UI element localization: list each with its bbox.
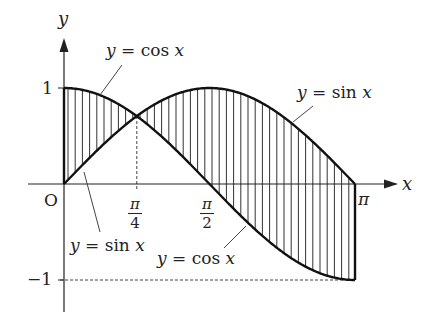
label-fn: sin [105, 235, 130, 255]
origin-label: O [44, 192, 58, 209]
label-cos-bottom: y = cos x [157, 250, 235, 267]
y-axis-label: y [58, 10, 68, 28]
y-tick-label-minus-1: −1 [27, 271, 52, 288]
y-axis-arrow-icon [60, 38, 69, 52]
label-equals: = [172, 248, 186, 268]
leader-cos-top [100, 65, 122, 95]
x-axis-arrow-icon [384, 180, 398, 189]
label-var-x: x [175, 40, 185, 60]
label-sin-bottom: y = sin x [70, 237, 145, 254]
label-equals: = [85, 235, 99, 255]
plot-area [0, 0, 435, 329]
diagram-canvas: y x O 1 −1 π 4 π 2 π y = cos x y = sin x… [0, 0, 435, 329]
label-fn: sin [332, 82, 357, 102]
x-tick-label-pi-over-2: π 2 [200, 197, 214, 231]
label-fn: cos [192, 248, 220, 268]
y-tick-label-1: 1 [42, 80, 53, 97]
fraction-numerator: π [128, 197, 142, 214]
leader-sin-bottom [84, 172, 100, 232]
x-tick-label-pi-over-4: π 4 [128, 197, 142, 231]
label-cos-top: y = cos x [106, 42, 184, 59]
label-fn: cos [141, 40, 169, 60]
fraction-denominator: 2 [200, 214, 214, 231]
leader-sin-top [293, 106, 313, 122]
label-var-x: x [226, 248, 236, 268]
label-var-x: x [362, 82, 372, 102]
x-tick-label-pi: π [358, 191, 369, 208]
label-var-y: y [106, 40, 116, 60]
leader-cos-bottom [224, 226, 246, 248]
label-var-y: y [157, 248, 167, 268]
label-var-y: y [70, 235, 80, 255]
label-equals: = [312, 82, 326, 102]
label-var-x: x [135, 235, 145, 255]
label-sin-top: y = sin x [297, 84, 372, 101]
label-var-y: y [297, 82, 307, 102]
curve-sin [64, 88, 355, 184]
fraction-numerator: π [200, 197, 214, 214]
x-axis-label: x [402, 175, 412, 193]
label-equals: = [121, 40, 135, 60]
fraction-denominator: 4 [128, 214, 142, 231]
